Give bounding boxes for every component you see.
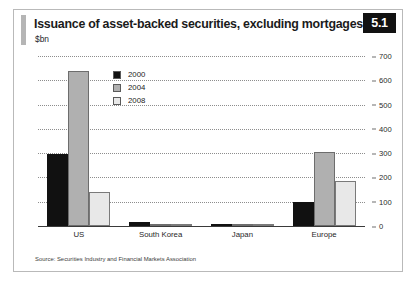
legend-item[interactable]: 2000 xyxy=(113,68,183,81)
bar xyxy=(232,224,253,226)
y-tick-mark xyxy=(372,177,376,178)
page-title: Issuance of asset-backed securities, exc… xyxy=(34,17,363,31)
source-note: Source: Securities Industry and Financia… xyxy=(35,256,196,262)
y-tick-mark xyxy=(372,226,376,227)
chart-legend: 200020042008 xyxy=(113,68,183,107)
legend-item[interactable]: 2004 xyxy=(113,81,183,94)
chart-figure: Issuance of asset-backed securities, exc… xyxy=(13,9,403,272)
bar xyxy=(68,71,89,226)
x-axis-label: South Korea xyxy=(139,230,182,239)
plot-area: 0100200300400500600700 USSouth KoreaJapa… xyxy=(38,56,365,226)
legend-label: 2000 xyxy=(128,70,145,79)
y-tick-label-700: 700 xyxy=(372,52,392,61)
x-axis-label: Japan xyxy=(232,230,253,239)
y-tick-label-200: 200 xyxy=(372,173,392,182)
title-accent-bar xyxy=(21,15,26,45)
y-tick-label-400: 400 xyxy=(372,124,392,133)
chart-subtitle: $bn xyxy=(35,34,49,44)
y-tick-label-0: 0 xyxy=(372,222,383,231)
y-tick-mark xyxy=(372,202,376,203)
bar xyxy=(253,224,274,226)
bar-group xyxy=(211,56,274,226)
bar xyxy=(314,152,335,226)
gridline-0 xyxy=(38,226,365,227)
legend-item[interactable]: 2008 xyxy=(113,94,183,107)
legend-label: 2008 xyxy=(128,96,145,105)
y-tick-mark xyxy=(372,153,376,154)
x-axis-label: US xyxy=(73,230,84,239)
y-tick-mark xyxy=(372,129,376,130)
bar-group xyxy=(293,56,356,226)
legend-swatch xyxy=(113,97,121,105)
bar-group xyxy=(47,56,110,226)
y-tick-label-300: 300 xyxy=(372,149,392,158)
legend-swatch xyxy=(113,84,121,92)
legend-swatch xyxy=(113,71,121,79)
y-tick-mark xyxy=(372,56,376,57)
y-tick-label-600: 600 xyxy=(372,76,392,85)
bar xyxy=(47,154,68,226)
chart-header: Issuance of asset-backed securities, exc… xyxy=(14,10,402,55)
y-tick-label-100: 100 xyxy=(372,197,392,206)
bar-series-container xyxy=(38,56,365,226)
bar xyxy=(171,224,192,226)
bar xyxy=(293,202,314,226)
x-axis-label: Europe xyxy=(312,230,337,239)
bar xyxy=(335,181,356,226)
y-tick-mark xyxy=(372,105,376,106)
bar xyxy=(150,224,171,226)
figure-number-badge: 5.1 xyxy=(363,13,396,33)
bar xyxy=(129,222,150,226)
y-tick-label-500: 500 xyxy=(372,100,392,109)
bar xyxy=(89,192,110,226)
bar xyxy=(211,224,232,226)
y-tick-mark xyxy=(372,80,376,81)
legend-label: 2004 xyxy=(128,83,145,92)
